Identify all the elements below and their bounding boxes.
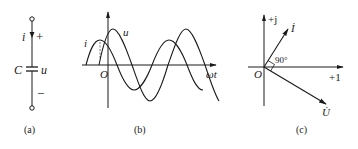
minus-label: −: [37, 86, 44, 101]
current-label: i: [22, 30, 25, 44]
angle-label: 90°: [275, 55, 288, 65]
caption-b: (b): [134, 124, 146, 136]
real-axis-label: +1: [329, 71, 341, 83]
top-terminal: [30, 17, 34, 21]
panel-b-waveform: i u O ωt (b): [82, 12, 219, 136]
x-axis-label: ωt: [206, 68, 218, 80]
plus-label: +: [36, 29, 43, 44]
current-label: i: [84, 37, 87, 49]
figure-canvas: i + C u − (a) i u O ωt (b) +j +1 O İ U̇ …: [0, 0, 358, 149]
capacitor-label: C: [14, 63, 23, 77]
panel-a-circuit: i + C u − (a): [14, 17, 47, 136]
current-arrow-icon: [30, 32, 35, 38]
voltage-phasor-label: U̇: [322, 106, 331, 118]
imag-axis-label: +j: [268, 13, 277, 25]
panel-c-phasor: +j +1 O İ U̇ 90° (c): [248, 13, 343, 136]
origin-label: O: [254, 68, 262, 80]
voltage-label: u: [41, 63, 47, 77]
caption-a: (a): [24, 124, 35, 136]
caption-c: (c): [296, 124, 307, 136]
origin-label: O: [100, 68, 108, 80]
voltage-label: u: [123, 26, 129, 38]
bottom-terminal: [30, 106, 34, 110]
voltage-phasor: [264, 67, 326, 104]
current-phasor-label: İ: [290, 22, 296, 34]
